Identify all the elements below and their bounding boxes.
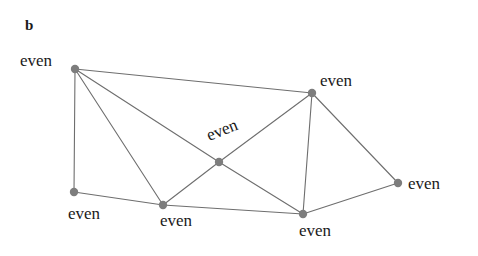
vertex-label-even: even xyxy=(408,175,440,192)
vertex-label-even: even xyxy=(68,205,100,222)
figure-panel: b eveneveneveneveneveneveneven xyxy=(0,0,478,256)
graph-edge xyxy=(312,93,398,183)
vertex-label-even: even xyxy=(299,222,331,239)
graph-edge xyxy=(75,69,219,162)
vertex-label-even: even xyxy=(20,52,52,69)
graph-vertex xyxy=(394,179,402,187)
node-layer xyxy=(70,65,402,218)
graph-vertex xyxy=(308,89,316,97)
graph-vertex xyxy=(215,158,223,166)
vertex-label-even: even xyxy=(320,72,352,89)
graph-edge xyxy=(303,93,312,214)
vertex-label-even: even xyxy=(160,212,192,229)
edge-layer xyxy=(74,69,398,214)
graph-edge xyxy=(219,162,303,214)
graph-vertex xyxy=(71,65,79,73)
graph-edge xyxy=(75,69,163,205)
graph-edge xyxy=(75,69,312,93)
graph-edge xyxy=(74,69,75,192)
graph-vertex xyxy=(70,188,78,196)
graph-edge xyxy=(303,183,398,214)
graph-vertex xyxy=(299,210,307,218)
graph-vertex xyxy=(159,201,167,209)
graph-edge xyxy=(163,162,219,205)
